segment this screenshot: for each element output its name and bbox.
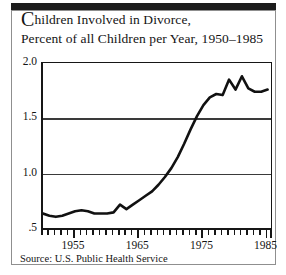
x-tick-minor-1981	[240, 230, 242, 235]
chart-title-line-2: Percent of all Children per Year, 1950–1…	[20, 31, 270, 47]
x-tick-minor-1972	[182, 230, 184, 235]
x-axis	[41, 228, 272, 237]
x-tick-minor-1959	[99, 230, 101, 235]
x-axis-label-1955: 1955	[62, 239, 85, 251]
x-tick-end	[270, 230, 272, 238]
x-tick-major-1965	[137, 230, 139, 238]
y-tick-label-2-0: 2.0	[4, 55, 37, 67]
plot-area	[41, 62, 272, 228]
x-tick-minor-1976	[208, 230, 210, 235]
x-tick-minor-1963	[124, 230, 126, 235]
x-tick-minor-1950	[41, 230, 43, 235]
x-tick-minor-1960	[105, 230, 107, 235]
y-axis-labels: 2.0 1.5 1.0 .5	[0, 0, 37, 275]
x-tick-minor-1982	[246, 230, 248, 235]
x-tick-major-1975	[201, 230, 203, 238]
source-note: Source: U.S. Public Health Service	[20, 253, 168, 264]
x-tick-minor-1966	[144, 230, 146, 235]
x-axis-label-1975: 1975	[190, 239, 213, 251]
x-tick-minor-1958	[92, 230, 94, 235]
divorce-series-line	[43, 63, 274, 229]
x-tick-minor-1957	[86, 230, 88, 235]
x-tick-minor-1962	[118, 230, 120, 235]
x-tick-minor-1977	[214, 230, 216, 235]
top-rule-bar	[11, 3, 276, 10]
x-tick-minor-1968	[157, 230, 159, 235]
x-tick-minor-1951	[47, 230, 49, 235]
x-tick-minor-1974	[195, 230, 197, 235]
x-tick-minor-1956	[80, 230, 82, 235]
x-tick-minor-1954	[67, 230, 69, 235]
x-tick-minor-1969	[163, 230, 165, 235]
x-tick-minor-1970	[169, 230, 171, 235]
y-tick-label-1-0: 1.0	[4, 166, 37, 178]
chart-figure: Children Involved in Divorce, Percent of…	[0, 0, 286, 275]
x-tick-minor-1967	[150, 230, 152, 235]
x-tick-minor-1978	[221, 230, 223, 235]
x-tick-minor-1961	[112, 230, 114, 235]
x-tick-minor-1973	[189, 230, 191, 235]
x-tick-minor-1980	[234, 230, 236, 235]
x-tick-minor-1984	[259, 230, 261, 235]
chart-title-line-1: Children Involved in Divorce,	[20, 12, 270, 28]
title-line-1-text: hildren Involved in Divorce,	[34, 12, 191, 27]
x-axis-label-1965: 1965	[126, 239, 149, 251]
y-tick-label-1-5: 1.5	[4, 110, 37, 122]
x-tick-minor-1964	[131, 230, 133, 235]
y-tick-label-0-5: .5	[4, 221, 37, 233]
x-tick-minor-1952	[54, 230, 56, 235]
x-tick-major-1985	[266, 230, 268, 238]
chart-title-block: Children Involved in Divorce, Percent of…	[20, 12, 270, 47]
x-tick-minor-1983	[253, 230, 255, 235]
x-tick-minor-1971	[176, 230, 178, 235]
x-tick-minor-1979	[227, 230, 229, 235]
x-axis-label-1985: 1985	[254, 239, 277, 251]
x-tick-minor-1953	[60, 230, 62, 235]
x-tick-major-1955	[73, 230, 75, 238]
